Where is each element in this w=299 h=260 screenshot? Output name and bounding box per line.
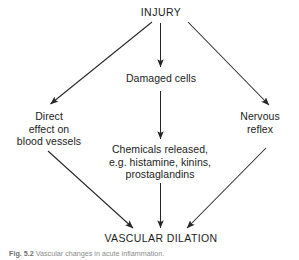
node-direct-effect-on-blood-vessels: Direct effect on blood vessels: [2, 110, 96, 148]
figure-caption-label: Fig. 5.2: [9, 249, 34, 258]
node-vascular-dilation: VASCULAR DILATION: [94, 232, 228, 245]
figure-caption-text: Vascular changes in acute inflammation.: [36, 249, 165, 258]
inflammation-flow-figure: INJURY Damaged cells Direct effect on bl…: [0, 0, 299, 260]
edge-injury-to-nervous-reflex: [188, 22, 269, 105]
edge-injury-to-direct-effect: [51, 22, 153, 104]
figure-caption: Fig. 5.2 Vascular changes in acute infla…: [9, 249, 291, 260]
node-nervous-reflex: Nervous reflex: [222, 110, 298, 135]
node-damaged-cells: Damaged cells: [108, 72, 214, 85]
node-chemicals-released: Chemicals released, e.g. histamine, kini…: [84, 143, 236, 181]
node-injury: INJURY: [118, 6, 204, 19]
